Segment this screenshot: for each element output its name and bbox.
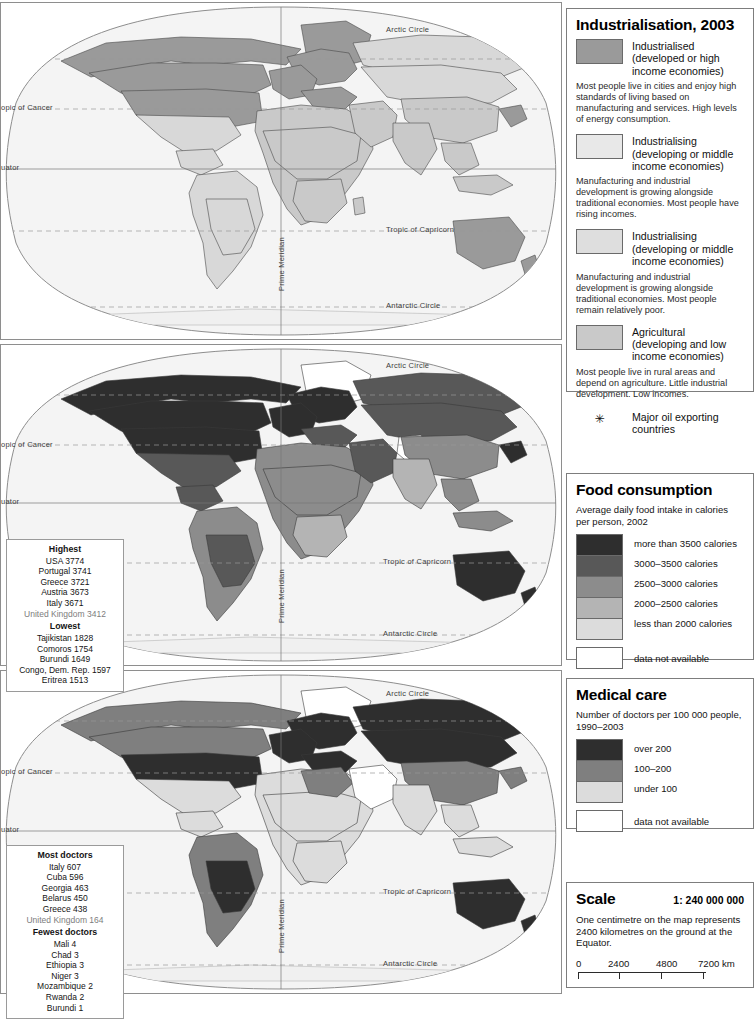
label-arctic-circle: Arctic Circle <box>386 689 429 698</box>
list-item: Niger 3 <box>13 971 117 982</box>
legend-subtitle-medical: Number of doctors per 100 000 people, 19… <box>576 709 744 732</box>
swatch-industrialised <box>576 39 623 64</box>
map-industrialisation[interactable]: Arctic Circle opic of Cancer uator Tropi… <box>0 2 562 340</box>
list-item: Rwanda 2 <box>13 992 117 1003</box>
list-item: Cuba 596 <box>13 872 117 883</box>
food-ramp-labels: more than 3500 calories 3000–3500 calori… <box>634 534 737 634</box>
legend-entry: Industrialised (developed or high income… <box>576 39 744 77</box>
list-item: Greece 438 <box>13 904 117 915</box>
medical-stats-box: Most doctors Italy 607 Cuba 596 Georgia … <box>6 845 124 1019</box>
scale-tick <box>661 972 662 979</box>
list-item: Italy 607 <box>13 862 117 873</box>
scale-tick-marks <box>576 972 744 982</box>
band-swatch <box>577 577 622 598</box>
label-tropic-of-cancer: opic of Cancer <box>1 103 53 112</box>
label-tropic-of-cancer: opic of Cancer <box>1 440 53 449</box>
legend-entry-label: Industrialised (developed or high income… <box>632 39 724 77</box>
scale-tick-label: 0 <box>576 958 581 969</box>
food-uk-value: United Kingdom 3412 <box>13 608 117 621</box>
food-lowest-list: Tajikistan 1828 Comoros 1754 Burundi 164… <box>13 633 117 686</box>
band-label: under 100 <box>634 779 677 799</box>
list-item: Burundi 1 <box>13 1003 117 1014</box>
medical-uk-value: United Kingdom 164 <box>13 914 117 927</box>
label-tropic-of-capricorn: Tropic of Capricorn <box>386 225 454 234</box>
legend-entry-description: Manufacturing and industrial development… <box>576 272 744 316</box>
scale-description: One centimetre on the map represents 240… <box>576 914 744 949</box>
label-arctic-circle: Arctic Circle <box>386 361 429 370</box>
swatch-no-data <box>576 810 623 832</box>
list-item: Italy 3671 <box>13 598 117 609</box>
label-arctic-circle: Arctic Circle <box>386 25 429 34</box>
medical-ramp: over 200 100–200 under 100 <box>576 739 744 803</box>
medical-most-list: Italy 607 Cuba 596 Georgia 463 Belarus 4… <box>13 862 117 915</box>
label-tropic-of-cancer: opic of Cancer <box>1 767 53 776</box>
label-tropic-of-capricorn: Tropic of Capricorn <box>383 887 451 896</box>
band-label: 100–200 <box>634 759 677 779</box>
band-label: over 200 <box>634 739 677 759</box>
list-item: Belarus 450 <box>13 893 117 904</box>
label-prime-meridian: Prime Meridian <box>277 569 286 623</box>
legend-title-food: Food consumption <box>576 481 744 498</box>
legend-scale: Scale 1: 240 000 000 One centimetre on t… <box>566 882 754 988</box>
list-item: Mali 4 <box>13 939 117 950</box>
list-item: Tajikistan 1828 <box>13 633 117 644</box>
band-label: 2500–3000 calories <box>634 574 737 594</box>
swatch-no-data <box>576 647 623 669</box>
list-item: Comoros 1754 <box>13 644 117 655</box>
scale-tick-numbers: 0 2400 4800 7200 km <box>576 958 744 970</box>
band-swatch <box>577 740 622 761</box>
scale-bar: 0 2400 4800 7200 km <box>576 958 744 984</box>
band-label: less than 2000 calories <box>634 614 737 634</box>
legend-entry-oil: ✳ Major oil exporting countries <box>576 411 744 436</box>
legend-entry-description: Most people live in cities and enjoy hig… <box>576 81 744 125</box>
list-item: Portugal 3741 <box>13 566 117 577</box>
band-label: 3000–3500 calories <box>634 554 737 574</box>
food-ramp: more than 3500 calories 3000–3500 calori… <box>576 534 744 640</box>
legend-title-medical: Medical care <box>576 686 744 703</box>
legend-entry-description: Manufacturing and industrial development… <box>576 176 744 220</box>
scale-tick <box>578 972 579 979</box>
list-item: Chad 3 <box>13 950 117 961</box>
label-prime-meridian: Prime Meridian <box>277 237 286 291</box>
legend-entry-label: Agricultural (developing and low income … <box>632 325 726 363</box>
list-item: Burundi 1649 <box>13 654 117 665</box>
legend-entry: Industrialising (developing or middle in… <box>576 229 744 267</box>
list-item: USA 3774 <box>13 556 117 567</box>
legend-industrialisation: Industrialisation, 2003 Industrialised (… <box>566 8 754 392</box>
band-swatch <box>577 761 622 782</box>
band-swatch <box>577 598 622 619</box>
band-swatch <box>577 782 622 802</box>
legend-entry: Agricultural (developing and low income … <box>576 325 744 363</box>
list-item: Congo, Dem. Rep. 1597 <box>13 665 117 676</box>
legend-entry-label: Industrialising (developing or middle in… <box>632 229 733 267</box>
swatch-industrialising-upper <box>576 134 623 159</box>
scale-tick <box>703 972 704 979</box>
medical-fewest-heading: Fewest doctors <box>13 927 117 939</box>
food-highest-list: USA 3774 Portugal 3741 Greece 3721 Austr… <box>13 556 117 609</box>
legend-entry-label: Major oil exporting countries <box>632 411 719 436</box>
list-item: Austria 3673 <box>13 587 117 598</box>
scale-tick <box>619 972 620 979</box>
swatch-agricultural <box>576 325 623 350</box>
scale-ratio: 1: 240 000 000 <box>673 894 744 906</box>
scale-tick-label: 2400 <box>608 958 629 969</box>
label-equator: uator <box>1 825 19 834</box>
swatch-industrialising-lower <box>576 229 623 254</box>
list-item: Georgia 463 <box>13 883 117 894</box>
food-highest-heading: Highest <box>13 544 117 556</box>
no-data-label: data not available <box>634 816 709 827</box>
legend-entry-label: Industrialising (developing or middle in… <box>632 134 733 172</box>
maps-column: Arctic Circle opic of Cancer uator Tropi… <box>0 0 562 996</box>
legend-medical-care: Medical care Number of doctors per 100 0… <box>566 678 754 829</box>
scale-tick-label: 4800 <box>656 958 677 969</box>
legend-entry-description: Most people live in rural areas and depe… <box>576 367 744 400</box>
label-equator: uator <box>1 497 19 506</box>
legend-title-scale: Scale <box>576 890 616 907</box>
legend-column: Industrialisation, 2003 Industrialised (… <box>564 0 755 996</box>
list-item: Greece 3721 <box>13 577 117 588</box>
medical-fewest-list: Mali 4 Chad 3 Ethiopia 3 Niger 3 Mozambi… <box>13 939 117 1013</box>
label-equator: uator <box>1 163 19 172</box>
scale-axis-line <box>578 972 706 973</box>
oil-asterisk-icon: ✳ <box>576 411 623 425</box>
label-prime-meridian: Prime Meridian <box>277 899 286 953</box>
